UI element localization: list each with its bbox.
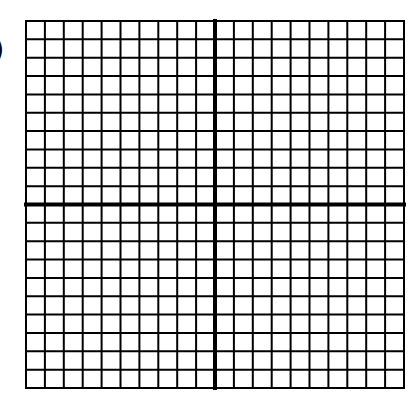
coordinate-grid	[0, 0, 412, 412]
